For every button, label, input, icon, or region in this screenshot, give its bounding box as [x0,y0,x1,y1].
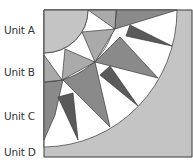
quilt-block-diagram [0,0,193,164]
